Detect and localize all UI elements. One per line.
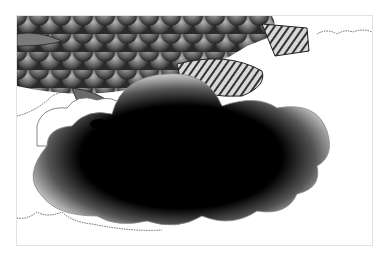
artwork-illustration bbox=[17, 16, 372, 245]
artwork-frame: Stippled fish over cloud illustration bbox=[16, 15, 373, 246]
fish-tail-shadow bbox=[90, 119, 108, 129]
